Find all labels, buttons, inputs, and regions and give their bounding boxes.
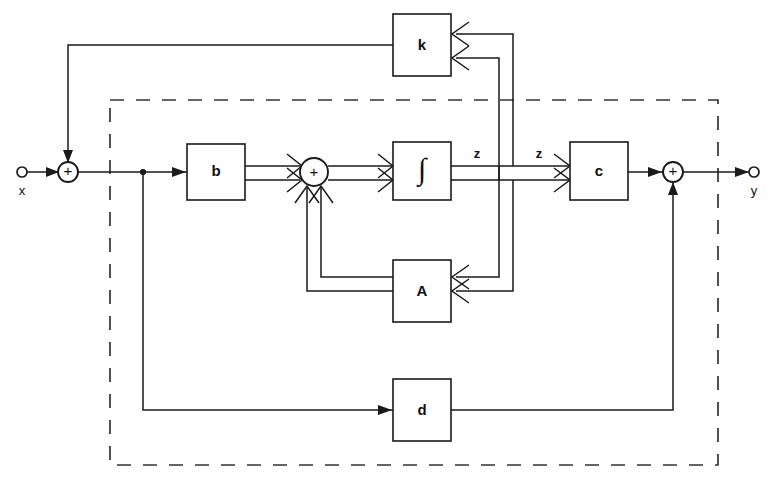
block-A-label: A xyxy=(417,282,428,299)
summing-junction-output-sign: + xyxy=(669,162,678,179)
wire-A-to-sum-outer xyxy=(307,186,393,291)
signal-label-z-right: z xyxy=(536,146,543,161)
block-k-label: k xyxy=(418,36,427,53)
wire-z-bus-down-to-A-outer xyxy=(456,180,513,291)
block-b-label: b xyxy=(211,162,220,179)
summing-junction-input-sign: + xyxy=(64,162,73,179)
wire-z-bus-to-k-lower xyxy=(456,58,499,180)
wire-branch-to-d xyxy=(143,175,393,410)
input-terminal[interactable] xyxy=(17,167,27,177)
wire-d-to-output-sum xyxy=(451,183,673,410)
branch-node-d-tap xyxy=(140,169,146,175)
figure-canvas: k x + b + xyxy=(0,0,776,490)
block-d-label: d xyxy=(417,401,426,418)
summing-junction-state-sign: + xyxy=(310,163,319,180)
block-c-label: c xyxy=(595,162,603,179)
wire-A-to-sum-inner xyxy=(321,186,393,277)
arrowhead-x-input xyxy=(46,167,59,177)
arrowhead-d-feedback xyxy=(668,182,678,195)
arrowhead-into-d xyxy=(378,405,392,415)
output-label: y xyxy=(751,183,758,198)
arrowhead-y-output xyxy=(735,167,749,177)
output-terminal[interactable] xyxy=(749,167,759,177)
signal-label-z-left: z xyxy=(474,146,481,161)
arrowhead-output-sum-left xyxy=(648,167,662,177)
block-diagram: k x + b + xyxy=(0,0,776,490)
block-integrator-label: ∫ xyxy=(416,152,428,188)
input-label: x xyxy=(19,183,26,198)
wire-z-bus-down-to-A-inner xyxy=(456,166,499,277)
arrowhead-into-b xyxy=(172,167,186,177)
